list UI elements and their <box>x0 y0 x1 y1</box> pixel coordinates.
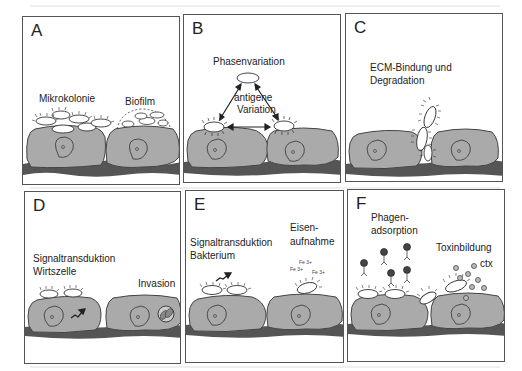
panel-f: F Phagen- adsorption Toxinbildung ctx <box>347 189 505 362</box>
phage-toxin-illustration <box>348 190 505 362</box>
phase-variation-illustration <box>184 15 341 183</box>
bacteria-biofilm-icon <box>122 112 168 127</box>
panel-e: E Signaltransduktion Bakterium Eisen- au… <box>185 190 344 363</box>
bacterium-icon <box>202 281 318 296</box>
host-signal-illustration <box>25 192 181 364</box>
panel-a: A Mikrokolonie Biofilm <box>22 16 180 185</box>
ecm-illustration <box>346 14 503 182</box>
bacterium-icon <box>204 122 224 132</box>
bacterium-icon <box>237 73 259 83</box>
bacterium-icon <box>274 121 294 131</box>
panel-d: D Signaltransduktion Wirtszelle Invasion <box>24 191 181 364</box>
panel-b: B Phasenvariation antigene Variation <box>183 14 341 183</box>
arrows-icon <box>220 84 278 130</box>
signal-arrow-icon <box>216 273 231 281</box>
panel-c: C ECM-Bindung und Degradation <box>345 13 503 182</box>
phage-icon <box>361 244 411 287</box>
invasion-vacuole-icon <box>158 306 174 322</box>
host-cells-illustration <box>23 17 180 185</box>
iron-uptake-illustration <box>186 191 344 363</box>
